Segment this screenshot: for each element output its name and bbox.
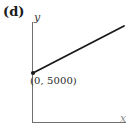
- x-axis-label: x: [120, 113, 126, 124]
- data-point-label: (0, 5000): [30, 75, 77, 87]
- figure-panel: (d) y x (0, 5000): [0, 0, 130, 131]
- panel-label: (d): [3, 4, 24, 20]
- data-line-series: [33, 26, 124, 73]
- y-axis-label: y: [34, 12, 40, 23]
